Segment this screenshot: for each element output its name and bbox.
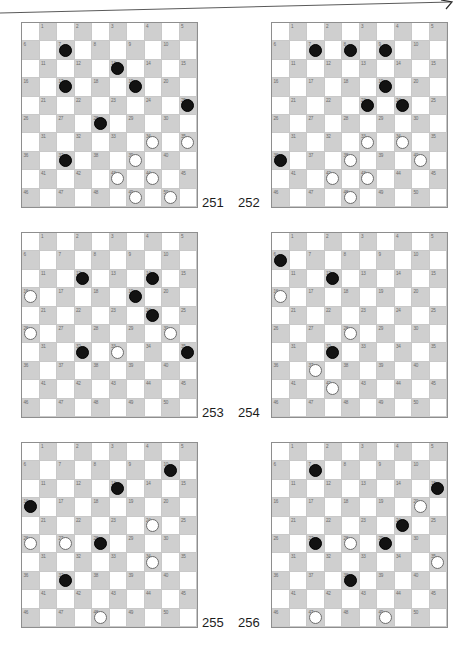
board-square-48[interactable]: 48 [92,399,110,417]
white-piece[interactable] [146,136,159,149]
board-square-30[interactable]: 30 [412,535,430,553]
black-piece[interactable] [164,464,177,477]
board-square-28[interactable]: 28 [342,325,360,343]
black-piece[interactable] [361,99,374,112]
board-square-11[interactable]: 11 [40,270,58,288]
black-piece[interactable] [379,80,392,93]
board-square-49[interactable]: 49 [127,609,145,627]
board-square-16[interactable]: 16 [22,78,40,96]
board-square-41[interactable]: 41 [290,380,308,398]
board-square-42[interactable]: 42 [325,590,343,608]
board-square-46[interactable]: 46 [22,609,40,627]
board-square-24[interactable]: 24 [395,97,413,115]
board-square-38[interactable]: 38 [342,572,360,590]
board-square-10[interactable]: 10 [162,41,180,59]
board-square-9[interactable]: 9 [127,41,145,59]
board-square-28[interactable]: 28 [92,535,110,553]
board-square-5[interactable]: 5 [430,23,448,41]
board-square-43[interactable]: 43 [360,590,378,608]
black-piece[interactable] [396,99,409,112]
board-square-8[interactable]: 8 [92,251,110,269]
board-square-16[interactable]: 16 [22,288,40,306]
board-square-6[interactable]: 6 [22,461,40,479]
board-square-18[interactable]: 18 [92,288,110,306]
board-square-48[interactable]: 48 [92,189,110,207]
black-piece[interactable] [326,346,339,359]
board-square-3[interactable]: 3 [110,443,128,461]
board-square-18[interactable]: 18 [342,288,360,306]
board-square-34[interactable]: 34 [395,133,413,151]
white-piece[interactable] [344,327,357,340]
board-square-7[interactable]: 7 [307,41,325,59]
board-square-48[interactable]: 48 [342,609,360,627]
board-square-32[interactable]: 32 [325,133,343,151]
white-piece[interactable] [181,136,194,149]
board-square-38[interactable]: 38 [92,152,110,170]
black-piece[interactable] [146,309,159,322]
board-square-15[interactable]: 15 [180,270,198,288]
board-square-28[interactable]: 28 [92,115,110,133]
board-square-29[interactable]: 29 [377,115,395,133]
white-piece[interactable] [164,191,177,204]
board-square-18[interactable]: 18 [92,78,110,96]
board-square-9[interactable]: 9 [377,251,395,269]
black-piece[interactable] [59,154,72,167]
board-square-21[interactable]: 21 [290,307,308,325]
board-square-9[interactable]: 9 [127,461,145,479]
white-piece[interactable] [414,500,427,513]
board-square-35[interactable]: 35 [180,553,198,571]
board-square-43[interactable]: 43 [110,590,128,608]
board-square-37[interactable]: 37 [307,152,325,170]
white-piece[interactable] [344,537,357,550]
board-square-33[interactable]: 33 [110,343,128,361]
board-square-38[interactable]: 38 [342,362,360,380]
black-piece[interactable] [129,80,142,93]
board-square-20[interactable]: 20 [412,288,430,306]
black-piece[interactable] [274,254,287,267]
white-piece[interactable] [309,364,322,377]
board-square-13[interactable]: 13 [360,480,378,498]
white-piece[interactable] [111,172,124,185]
board-square-44[interactable]: 44 [395,590,413,608]
black-piece[interactable] [326,272,339,285]
board-square-43[interactable]: 43 [110,380,128,398]
board-square-50[interactable]: 50 [412,189,430,207]
board-square-46[interactable]: 46 [272,399,290,417]
board-square-27[interactable]: 27 [307,325,325,343]
board-square-16[interactable]: 16 [272,498,290,516]
board-square-4[interactable]: 4 [395,443,413,461]
black-piece[interactable] [76,272,89,285]
board-square-37[interactable]: 37 [307,362,325,380]
board-square-12[interactable]: 12 [325,270,343,288]
board-square-13[interactable]: 13 [110,270,128,288]
board-square-48[interactable]: 48 [342,189,360,207]
black-piece[interactable] [146,272,159,285]
board-square-44[interactable]: 44 [395,380,413,398]
board-square-39[interactable]: 39 [127,152,145,170]
board-square-33[interactable]: 33 [360,553,378,571]
board-square-17[interactable]: 17 [307,498,325,516]
board-square-37[interactable]: 37 [307,572,325,590]
board-square-41[interactable]: 41 [40,170,58,188]
board-square-12[interactable]: 12 [75,270,93,288]
board-square-19[interactable]: 19 [377,78,395,96]
black-piece[interactable] [24,500,37,513]
board-square-28[interactable]: 28 [92,325,110,343]
board-square-7[interactable]: 7 [307,251,325,269]
white-piece[interactable] [309,611,322,624]
board-square-29[interactable]: 29 [377,535,395,553]
board-square-37[interactable]: 37 [57,152,75,170]
board-square-34[interactable]: 34 [395,553,413,571]
board-square-41[interactable]: 41 [290,170,308,188]
board-square-1[interactable]: 1 [40,233,58,251]
board-square-8[interactable]: 8 [342,41,360,59]
board-square-7[interactable]: 7 [307,461,325,479]
board-square-39[interactable]: 39 [377,572,395,590]
board-square-25[interactable]: 25 [180,97,198,115]
board-square-14[interactable]: 14 [395,60,413,78]
board-square-8[interactable]: 8 [92,41,110,59]
board-square-35[interactable]: 35 [430,133,448,151]
board-square-25[interactable]: 25 [180,517,198,535]
board-square-17[interactable]: 17 [57,78,75,96]
board-square-16[interactable]: 16 [272,78,290,96]
